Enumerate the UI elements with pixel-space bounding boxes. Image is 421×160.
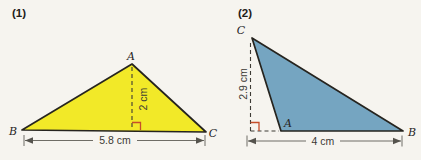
figure-2-height-label: 2.9 cm — [237, 68, 249, 100]
figure-1: (1) 2 cm A B C 5.8 cm — [8, 7, 218, 146]
figure-2-label: (2) — [238, 7, 252, 19]
figure-2-vertex-a-label: A — [283, 117, 292, 130]
figure-2-vertex-b-label: B — [407, 126, 416, 139]
figure-2: (2) 2.9 cm C A B 4 cm — [237, 7, 416, 147]
figure-1-base-dimension: 5.8 cm — [24, 134, 205, 146]
figure-1-height-label: 2 cm — [137, 87, 149, 110]
figure-2-base-dimension: 4 cm — [247, 135, 402, 147]
figure-2-dim-arrow-left — [248, 138, 256, 145]
figure-1-vertex-c-label: C — [209, 127, 218, 140]
figure-1-dim-arrow-right — [196, 137, 204, 144]
figure-1-vertex-a-label: A — [126, 50, 135, 63]
figure-1-triangle-shape — [22, 64, 206, 132]
figure-2-triangle-shape — [252, 38, 403, 131]
figure-2-base-label: 4 cm — [312, 135, 335, 147]
figure-1-dim-arrow-left — [25, 137, 33, 144]
geometry-figure-canvas: (1) 2 cm A B C 5.8 cm — [0, 0, 421, 160]
figure-1-vertex-b-label: B — [8, 125, 17, 138]
figure-1-label: (1) — [12, 7, 26, 19]
figure-1-base-label: 5.8 cm — [99, 134, 131, 146]
figure-2-right-angle-marker — [251, 123, 260, 132]
figure-2-dim-arrow-right — [393, 138, 401, 145]
triangles-diagram: (1) 2 cm A B C 5.8 cm — [0, 0, 421, 160]
figure-2-vertex-c-label: C — [237, 24, 246, 37]
